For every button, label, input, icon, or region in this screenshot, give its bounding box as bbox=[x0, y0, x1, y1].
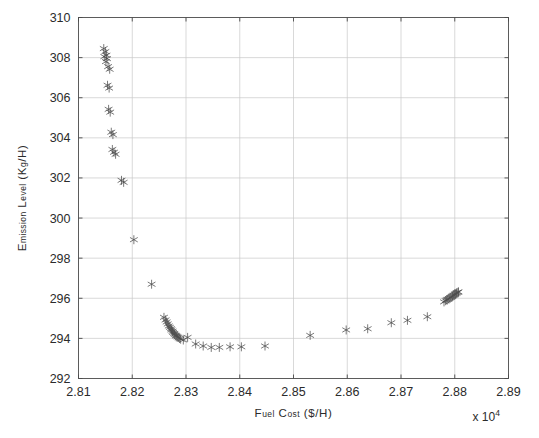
x-axis-title: Fuel Cost ($/H) bbox=[255, 407, 333, 419]
data-point bbox=[184, 333, 191, 341]
data-point bbox=[148, 280, 155, 288]
data-point bbox=[238, 343, 245, 351]
data-point bbox=[104, 81, 111, 89]
x-axis-title-text: Fuel Cost ($/H) bbox=[255, 407, 333, 419]
y-axis-title-text: Emission Level (Kg/H) bbox=[16, 145, 28, 252]
data-point bbox=[424, 313, 431, 321]
y-tick-label: 304 bbox=[50, 131, 71, 145]
y-tick-label: 292 bbox=[50, 372, 71, 386]
data-point bbox=[200, 342, 207, 350]
data-points bbox=[100, 44, 462, 351]
y-tick-label: 294 bbox=[50, 332, 71, 346]
scatter-plot: 2.812.822.832.842.852.862.872.882.89 292… bbox=[0, 0, 539, 438]
multiplier-text: x 104 bbox=[473, 408, 501, 424]
x-axis-multiplier: x 104 bbox=[473, 408, 501, 424]
x-tick-label: 2.86 bbox=[335, 385, 359, 399]
y-tick-label: 298 bbox=[50, 252, 71, 266]
x-tick-label: 2.84 bbox=[228, 385, 252, 399]
data-point bbox=[130, 236, 137, 244]
grid-lines bbox=[79, 18, 509, 379]
x-tick-label: 2.83 bbox=[174, 385, 198, 399]
data-point bbox=[192, 340, 199, 348]
x-tick-label: 2.85 bbox=[281, 385, 305, 399]
data-point bbox=[216, 343, 223, 351]
y-tick-label: 306 bbox=[50, 91, 71, 105]
data-point bbox=[106, 84, 113, 92]
data-point bbox=[227, 343, 234, 351]
y-tick-label: 300 bbox=[50, 212, 71, 226]
data-point bbox=[105, 105, 112, 113]
data-point bbox=[261, 342, 268, 350]
data-point bbox=[208, 343, 215, 351]
figure-canvas: 2.812.822.832.842.852.862.872.882.89 292… bbox=[0, 0, 539, 438]
y-tick-label: 308 bbox=[50, 51, 71, 65]
x-tick-labels: 2.812.822.832.842.852.862.872.882.89 bbox=[66, 385, 520, 399]
y-tick-label: 310 bbox=[50, 11, 71, 25]
y-tick-label: 296 bbox=[50, 292, 71, 306]
data-point bbox=[404, 316, 411, 324]
y-tick-labels: 292294296298300302304306308310 bbox=[50, 11, 71, 386]
y-tick-label: 302 bbox=[50, 171, 71, 185]
data-point bbox=[107, 108, 114, 116]
data-point bbox=[364, 325, 371, 333]
y-axis-title: Emission Level (Kg/H) bbox=[16, 145, 28, 252]
x-tick-label: 2.87 bbox=[389, 385, 413, 399]
x-tick-label: 2.82 bbox=[120, 385, 144, 399]
data-point bbox=[388, 319, 395, 327]
x-tick-label: 2.89 bbox=[496, 385, 520, 399]
data-point bbox=[343, 326, 350, 334]
x-tick-label: 2.81 bbox=[66, 385, 90, 399]
x-tick-label: 2.88 bbox=[443, 385, 467, 399]
